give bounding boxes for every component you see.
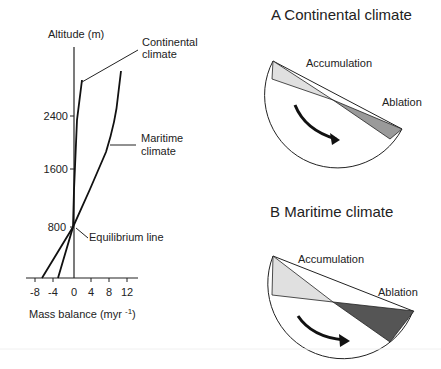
panel-b-title: B Maritime climate bbox=[270, 203, 393, 220]
x-tick-minus4: -4 bbox=[48, 286, 58, 298]
diagram-canvas: Altitude (m) 2400 1600 800 -8 -4 0 4 8 1… bbox=[0, 0, 441, 369]
panel-a-accumulation-label: Accumulation bbox=[306, 57, 372, 69]
equilibrium-leader bbox=[76, 228, 88, 238]
equilibrium-label: Equilibrium line bbox=[89, 231, 164, 243]
x-tick-0: 0 bbox=[71, 286, 77, 298]
y-tick-800: 800 bbox=[48, 221, 66, 233]
x-tick-4: 4 bbox=[88, 286, 94, 298]
panel-b-accumulation-label: Accumulation bbox=[298, 253, 364, 265]
panel-a-continental: A Continental climate Accumulation Ablat… bbox=[265, 6, 422, 168]
continental-label-line2: climate bbox=[142, 48, 177, 60]
x-axis-label: Mass balance (myr -1) bbox=[29, 307, 136, 320]
maritime-label-line1: Maritime bbox=[141, 132, 183, 144]
x-tick-12: 12 bbox=[121, 286, 133, 298]
y-axis-label: Altitude (m) bbox=[48, 28, 104, 40]
x-tick-minus8: -8 bbox=[30, 286, 40, 298]
y-tick-2400: 2400 bbox=[44, 110, 68, 122]
y-tick-1600: 1600 bbox=[44, 163, 68, 175]
x-tick-8: 8 bbox=[106, 286, 112, 298]
panel-a-ablation-label: Ablation bbox=[382, 96, 422, 108]
panel-a-title: A Continental climate bbox=[271, 6, 412, 23]
maritime-label-line2: climate bbox=[141, 145, 176, 157]
mass-balance-graph: Altitude (m) 2400 1600 800 -8 -4 0 4 8 1… bbox=[26, 28, 198, 320]
continental-label-line1: Continental bbox=[142, 36, 198, 48]
panel-b-maritime: B Maritime climate Accumulation Ablation bbox=[268, 203, 418, 359]
continental-leader bbox=[82, 50, 138, 82]
panel-b-ablation-label: Ablation bbox=[378, 286, 418, 298]
